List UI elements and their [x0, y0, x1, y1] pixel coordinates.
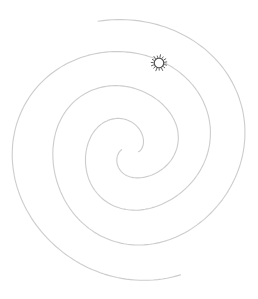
sun-ray-tick: [156, 68, 157, 70]
sun-ray-tick: [162, 68, 163, 70]
sun-ray-tick: [151, 65, 153, 66]
sun-circle: [154, 58, 164, 68]
galaxy-spiral-figure: [0, 0, 258, 299]
sun-ray-tick: [154, 67, 155, 68]
sun-ray-tick: [164, 59, 166, 60]
sun-ray-tick: [165, 65, 167, 66]
sun-ray-tick: [152, 59, 153, 60]
sun-icon: [151, 55, 167, 71]
figure-canvas: [0, 0, 258, 299]
sun-ray-tick: [162, 57, 163, 58]
sun-ray-tick: [164, 67, 165, 68]
spiral-arm-a: [53, 20, 245, 245]
